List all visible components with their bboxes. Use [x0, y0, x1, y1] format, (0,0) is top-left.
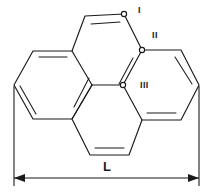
- figure-container: I II III L: [0, 0, 215, 193]
- marker-label-III: III: [140, 81, 149, 90]
- bottom-ring-outline: [72, 85, 142, 155]
- marker-circle-I: [121, 11, 126, 16]
- marked-vertex-group: [120, 11, 144, 87]
- skeleton-bonds: [14, 14, 199, 155]
- left-ring-outline: [14, 51, 92, 119]
- marker-label-I: I: [138, 6, 141, 15]
- dimension-label-L: L: [103, 160, 111, 173]
- marker-circle-III: [120, 82, 125, 87]
- arrowhead-right: [188, 174, 199, 182]
- double-bond-top-upper: [91, 22, 120, 24]
- arrowhead-left: [14, 174, 25, 182]
- marker-label-II: II: [152, 31, 158, 40]
- double-bond-right-upper: [175, 57, 192, 84]
- marker-circle-II: [139, 47, 144, 52]
- right-ring-outline: [123, 50, 199, 120]
- top-ring-outline: [72, 14, 142, 85]
